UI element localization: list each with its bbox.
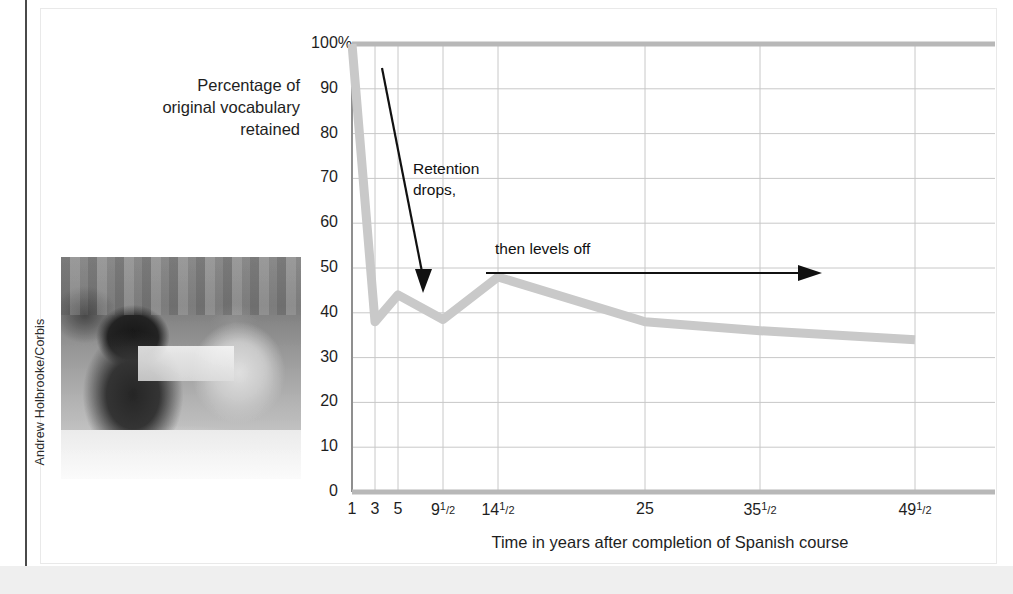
photo-background-detail bbox=[61, 257, 301, 315]
y-tick-label: 70 bbox=[286, 168, 338, 186]
y-axis-title-line-1: Percentage of bbox=[95, 74, 300, 96]
x-tick-label: 491/2 bbox=[875, 500, 955, 519]
y-axis-title: Percentage of original vocabulary retain… bbox=[95, 74, 300, 140]
y-tick-label: 40 bbox=[286, 303, 338, 321]
left-margin-rule bbox=[25, 0, 27, 568]
classroom-photo bbox=[61, 257, 301, 479]
photo-credit: Andrew Holbrooke/Corbis bbox=[33, 282, 47, 502]
bottom-band bbox=[0, 566, 1013, 594]
x-axis-title: Time in years after completion of Spanis… bbox=[340, 533, 1000, 552]
y-tick-label: 50 bbox=[286, 258, 338, 276]
y-axis-title-line-2: original vocabulary bbox=[95, 96, 300, 118]
photo-desk-detail bbox=[138, 346, 234, 382]
annotation-levels-off: then levels off bbox=[495, 238, 590, 259]
photo-table-detail bbox=[61, 430, 301, 479]
y-tick-label: 100% bbox=[286, 34, 352, 52]
y-tick-label: 10 bbox=[286, 437, 338, 455]
x-tick-label: 25 bbox=[605, 500, 685, 518]
y-axis-title-line-3: retained bbox=[95, 118, 300, 140]
y-tick-label: 90 bbox=[286, 79, 338, 97]
x-tick-label: 351/2 bbox=[720, 500, 800, 519]
y-tick-label: 80 bbox=[286, 124, 338, 142]
annotation-retention-drops: Retention drops, bbox=[413, 158, 479, 200]
y-tick-label: 20 bbox=[286, 392, 338, 410]
figure-page: Andrew Holbrooke/Corbis Percentage of or… bbox=[0, 0, 1013, 594]
y-tick-label: 30 bbox=[286, 348, 338, 366]
x-tick-label: 141/2 bbox=[458, 500, 538, 519]
y-tick-label: 60 bbox=[286, 213, 338, 231]
y-tick-label: 0 bbox=[286, 482, 338, 500]
annotation-retention-drops-line-1: Retention bbox=[413, 158, 479, 179]
annotation-retention-drops-line-2: drops, bbox=[413, 179, 479, 200]
